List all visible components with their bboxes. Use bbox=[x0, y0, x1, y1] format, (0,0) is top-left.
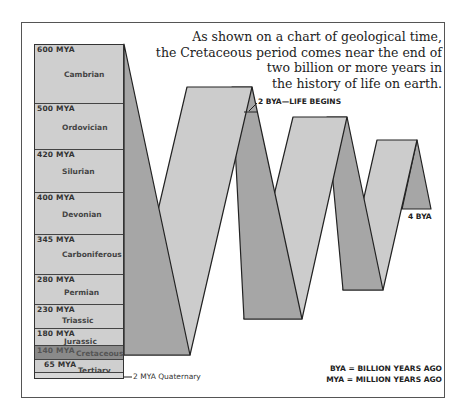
caption-line: the Cretaceous period comes near the end… bbox=[156, 45, 442, 61]
life-begins-label: 2 BYA—LIFE BEGINS bbox=[258, 97, 341, 106]
era-ordovician: 500 MYA Ordovician bbox=[35, 103, 123, 149]
caption-line: two billion or more years in bbox=[156, 60, 442, 76]
era-cambrian: 600 MYA Cambrian bbox=[35, 45, 123, 103]
legend-bya: BYA = BILLION YEARS AGO bbox=[326, 363, 442, 374]
era-quaternary-band bbox=[35, 372, 123, 378]
era-permian: 280 MYA Permian bbox=[35, 274, 123, 304]
caption-line: the history of life on earth. bbox=[156, 76, 442, 92]
quaternary-label: 2 MYA Quaternary bbox=[133, 372, 201, 381]
legend: BYA = BILLION YEARS AGO MYA = MILLION YE… bbox=[326, 363, 442, 385]
geologic-time-column: 600 MYA Cambrian 500 MYA Ordovician 420 … bbox=[34, 44, 124, 379]
legend-mya: MYA = MILLION YEARS AGO bbox=[326, 374, 442, 385]
era-triassic: 230 MYA Triassic bbox=[35, 304, 123, 328]
era-cretaceous: 140 MYA Cretaceous bbox=[35, 345, 123, 359]
end-label-4-bya: 4 BYA bbox=[408, 212, 432, 221]
era-jurassic: 180 MYA Jurassic bbox=[35, 328, 123, 345]
caption: As shown on a chart of geological time, … bbox=[156, 29, 442, 91]
era-carboniferous: 345 MYA Carboniferous bbox=[35, 234, 123, 274]
era-silurian: 420 MYA Silurian bbox=[35, 149, 123, 192]
era-devonian: 400 MYA Devonian bbox=[35, 192, 123, 234]
caption-line: As shown on a chart of geological time, bbox=[156, 29, 442, 45]
